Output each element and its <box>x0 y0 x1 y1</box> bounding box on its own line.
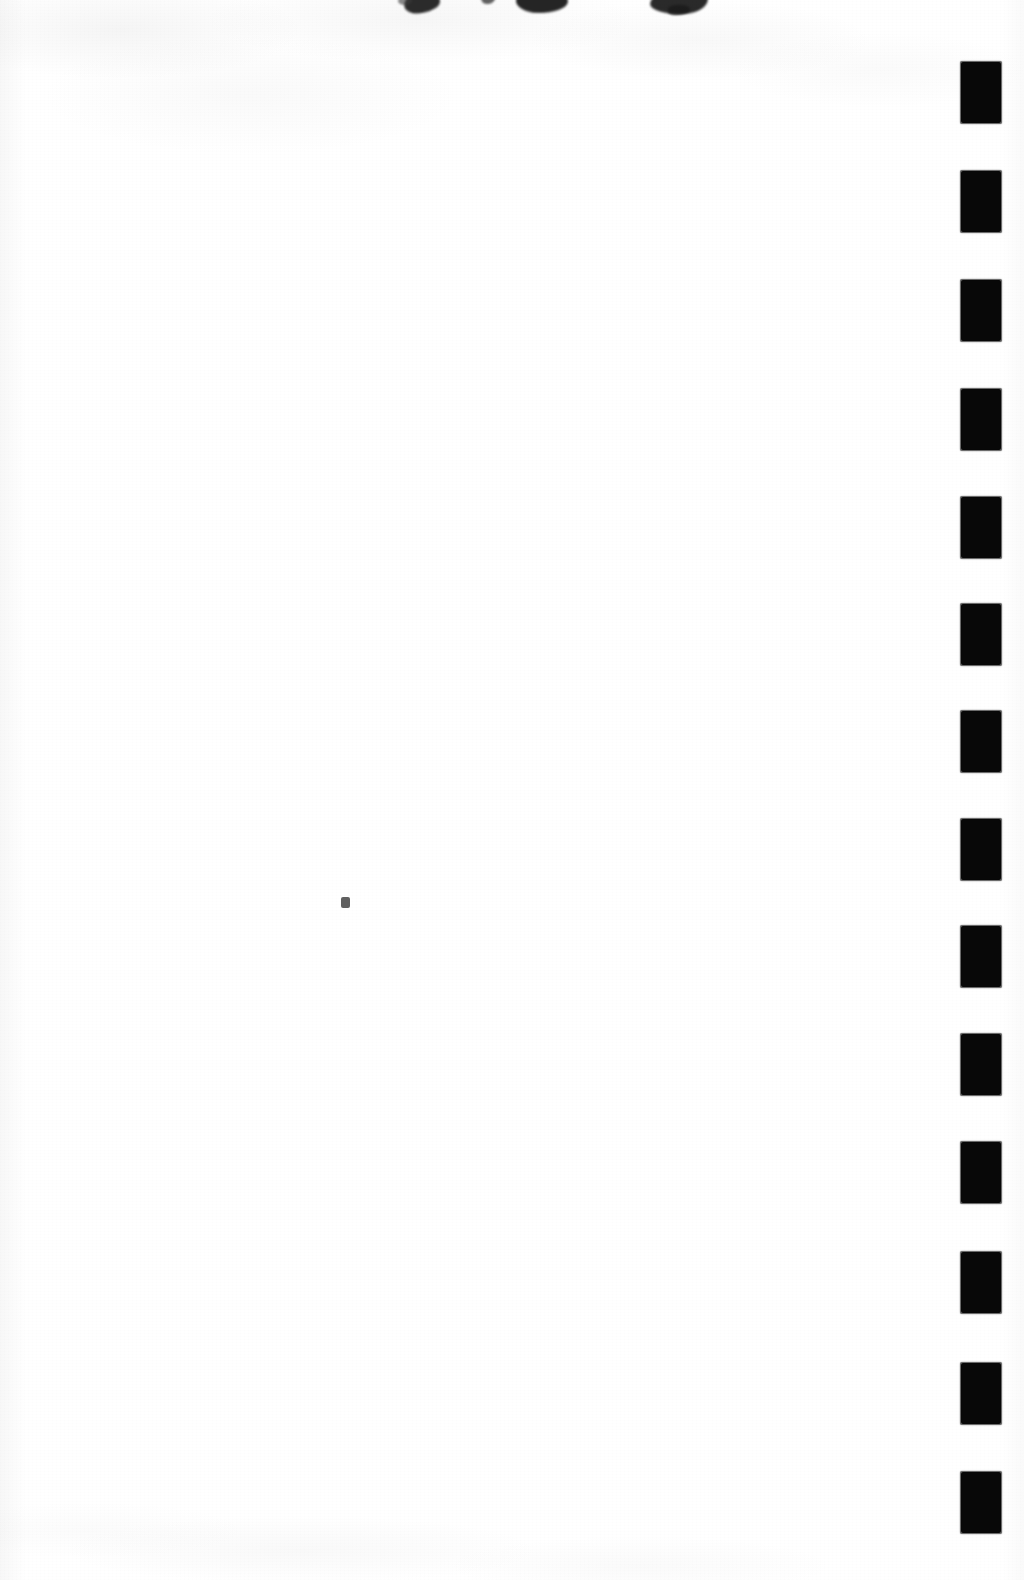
registration-mark <box>961 711 1001 772</box>
registration-mark <box>961 1472 1001 1533</box>
page-speck-artifact <box>341 897 350 908</box>
registration-mark <box>961 280 1001 341</box>
page-body-blank-area <box>0 0 950 1580</box>
registration-mark <box>961 62 1001 123</box>
registration-mark <box>961 604 1001 665</box>
registration-mark <box>961 1252 1001 1313</box>
registration-mark <box>961 171 1001 232</box>
registration-mark-strip <box>955 0 1015 1580</box>
registration-mark <box>961 1363 1001 1424</box>
registration-mark <box>961 497 1001 558</box>
registration-mark <box>961 926 1001 987</box>
registration-mark <box>961 1142 1001 1203</box>
registration-mark <box>961 389 1001 450</box>
scanned-page <box>0 0 1024 1580</box>
registration-mark <box>961 1034 1001 1095</box>
registration-mark <box>961 819 1001 880</box>
